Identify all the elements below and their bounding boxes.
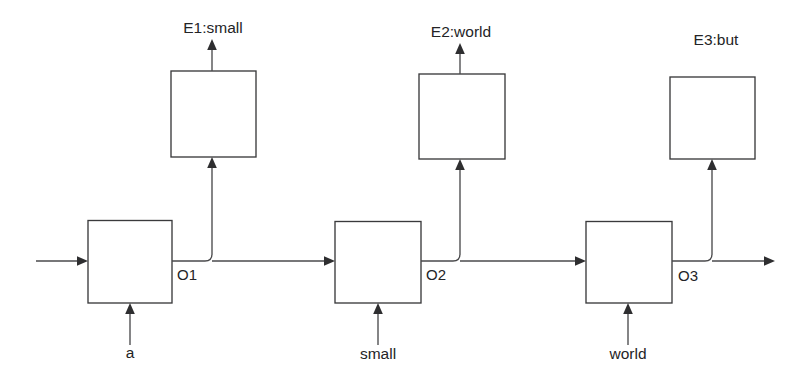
recurrent-cell-1 — [88, 221, 172, 304]
state-label-o1: O1 — [177, 266, 197, 283]
emit-input-arrowhead-2 — [455, 159, 465, 170]
emission-output-arrowhead-2 — [455, 43, 465, 54]
unrolled-rnn-diagram: a O1 E1:small small O2 E2:world — [0, 0, 812, 385]
emission-cell-1 — [171, 71, 256, 157]
emission-label-3: E3:but — [694, 31, 740, 48]
emission-cell-3 — [670, 77, 755, 159]
emission-label-1: E1:small — [183, 19, 242, 36]
input-label-3: world — [608, 345, 646, 362]
state-branch-path-3 — [672, 170, 712, 261]
emit-input-arrowhead-1 — [207, 157, 217, 168]
input-arrowhead-1 — [125, 303, 135, 314]
diagram-canvas: a O1 E1:small small O2 E2:world — [0, 0, 812, 385]
initial-state-arrowhead — [77, 256, 88, 266]
final-state-arrowhead — [764, 256, 775, 266]
emission-output-arrowhead-1 — [207, 39, 217, 50]
input-label-2: small — [360, 345, 396, 362]
input-label-1: a — [126, 344, 135, 361]
input-arrowhead-3 — [623, 303, 633, 314]
state-flow-arrowhead-2-to-3 — [575, 256, 586, 266]
emit-input-arrowhead-3 — [707, 159, 717, 170]
state-flow-arrowhead-1-to-2 — [324, 256, 335, 266]
state-label-o3: O3 — [678, 267, 698, 284]
state-branch-path-2 — [421, 170, 460, 261]
emission-label-2: E2:world — [431, 23, 491, 40]
state-label-o2: O2 — [426, 266, 446, 283]
input-arrowhead-2 — [373, 303, 383, 314]
emission-cell-2 — [419, 74, 505, 159]
recurrent-cell-2 — [335, 222, 421, 304]
recurrent-cell-3 — [586, 222, 672, 304]
state-branch-path-1 — [172, 168, 212, 261]
